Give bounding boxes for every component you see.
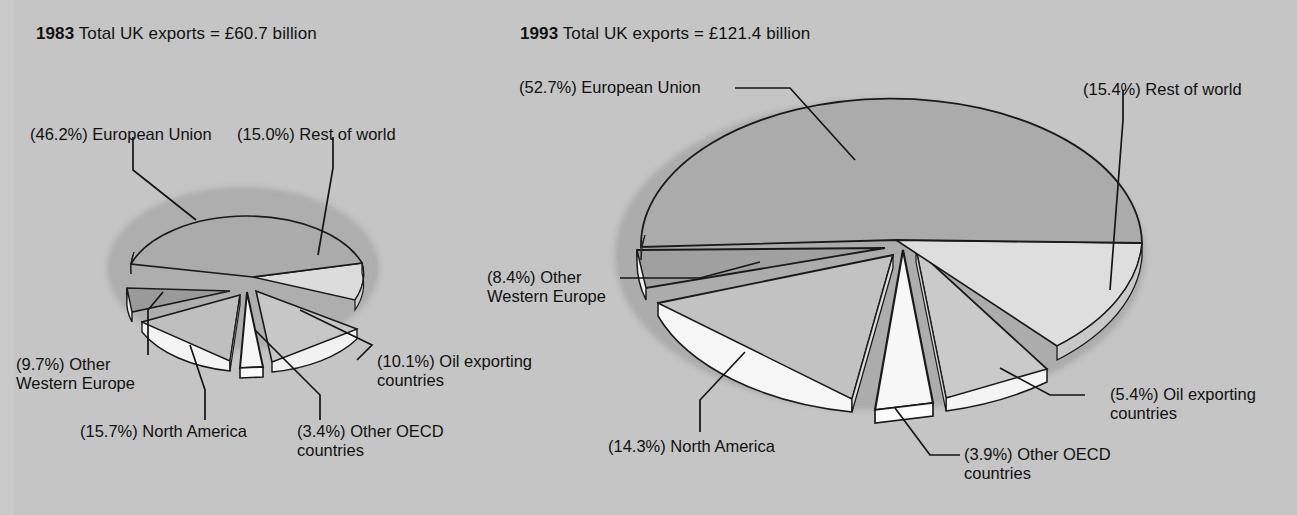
label-1983-rest-of-world-line1: (15.0%) Rest of world	[237, 125, 396, 144]
label-1983-north-america: (15.7%) North America	[80, 422, 247, 441]
label-1993-european-union: (52.7%) European Union	[519, 78, 701, 97]
title-text-1993: Total UK exports = £121.4 billion	[563, 24, 811, 43]
label-1983-oil-exporting-line1: (10.1%) Oil exporting	[377, 352, 532, 371]
label-1983-other-western-europe-line1: (9.7%) Other	[16, 355, 135, 374]
label-1993-european-union-line1: (52.7%) European Union	[519, 78, 701, 97]
label-1983-oil-exporting: (10.1%) Oil exporting countries	[377, 352, 532, 390]
year-1993: 1993	[520, 24, 558, 43]
label-1993-north-america: (14.3%) North America	[608, 437, 775, 456]
year-1983: 1983	[36, 24, 74, 43]
label-1993-rest-of-world-line1: (15.4%) Rest of world	[1083, 80, 1242, 99]
label-1983-other-western-europe-line2: Western Europe	[16, 374, 135, 393]
label-1993-other-western-europe-line2: Western Europe	[487, 287, 606, 306]
label-1993-other-western-europe-line1: (8.4%) Other	[487, 268, 606, 287]
label-1993-other-oecd-line2: countries	[964, 464, 1111, 483]
label-1983-other-oecd: (3.4%) Other OECD countries	[297, 422, 444, 460]
title-text-1983: Total UK exports = £60.7 billion	[79, 24, 317, 43]
page-title-1993: 1993 Total UK exports = £121.4 billion	[520, 24, 810, 44]
label-1993-oil-exporting: (5.4%) Oil exporting countries	[1110, 385, 1256, 423]
label-1983-other-oecd-line2: countries	[297, 441, 444, 460]
label-1993-oil-exporting-line1: (5.4%) Oil exporting	[1110, 385, 1256, 404]
label-1983-north-america-line1: (15.7%) North America	[80, 422, 247, 441]
label-1983-oil-exporting-line2: countries	[377, 371, 532, 390]
label-1993-other-western-europe: (8.4%) Other Western Europe	[487, 268, 606, 306]
label-1983-european-union: (46.2%) European Union	[30, 125, 212, 144]
label-1983-european-union-line1: (46.2%) European Union	[30, 125, 212, 144]
figure-canvas: 1983 Total UK exports = £60.7 billion 19…	[0, 0, 1297, 515]
label-1993-oil-exporting-line2: countries	[1110, 404, 1256, 423]
label-1993-rest-of-world: (15.4%) Rest of world	[1083, 80, 1242, 99]
label-1983-other-western-europe: (9.7%) Other Western Europe	[16, 355, 135, 393]
label-1993-north-america-line1: (14.3%) North America	[608, 437, 775, 456]
label-1983-rest-of-world: (15.0%) Rest of world	[237, 125, 396, 144]
page-title-1983: 1983 Total UK exports = £60.7 billion	[36, 24, 317, 44]
label-1993-other-oecd: (3.9%) Other OECD countries	[964, 445, 1111, 483]
label-1983-other-oecd-line1: (3.4%) Other OECD	[297, 422, 444, 441]
label-1993-other-oecd-line1: (3.9%) Other OECD	[964, 445, 1111, 464]
